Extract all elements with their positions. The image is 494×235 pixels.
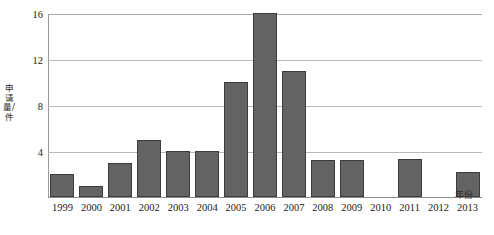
x-axis-title: 年份 (455, 188, 473, 201)
bar-2009[interactable] (340, 160, 364, 197)
bar-slot (427, 13, 451, 197)
bar-1999[interactable] (50, 174, 74, 197)
x-axis-tick-label-2013: 2013 (448, 202, 488, 213)
bar-slot (50, 13, 74, 197)
bar-2002[interactable] (137, 140, 161, 198)
y-axis-tick-label: 12 (33, 55, 44, 66)
bar-2011[interactable] (398, 159, 422, 197)
bar-slot (79, 13, 103, 197)
bar-slot (456, 13, 480, 197)
bar-2004[interactable] (195, 151, 219, 197)
x-axis-tick-labels: 1999200020012002200320042005200620072008… (48, 202, 482, 218)
bar-2006[interactable] (253, 13, 277, 197)
bar-slot (166, 13, 190, 197)
bar-2000[interactable] (79, 186, 103, 198)
bar-slot (137, 13, 161, 197)
bar-slot (311, 13, 335, 197)
bars-group (48, 14, 482, 198)
x-axis-line (48, 197, 482, 198)
bar-slot (108, 13, 132, 197)
bar-2003[interactable] (166, 151, 190, 197)
y-axis-tick-label: 4 (38, 147, 43, 158)
plot-inner: 481216 (48, 14, 482, 198)
bar-2001[interactable] (108, 163, 132, 198)
bar-slot (195, 13, 219, 197)
y-axis-tick-label: 16 (33, 9, 44, 20)
bar-2008[interactable] (311, 160, 335, 197)
y-axis-tick-label: 8 (38, 101, 43, 112)
bar-slot (398, 13, 422, 197)
bar-2007[interactable] (282, 71, 306, 198)
bar-slot (369, 13, 393, 197)
y-axis-title: 申请量/件 (2, 84, 16, 122)
bar-slot (224, 13, 248, 197)
plot-area: 481216 (48, 14, 482, 198)
bar-chart: 申请量/件 481216 199920002001200220032004200… (0, 0, 494, 235)
bar-slot (340, 13, 364, 197)
bar-2005[interactable] (224, 82, 248, 197)
bar-slot (282, 13, 306, 197)
bar-slot (253, 13, 277, 197)
